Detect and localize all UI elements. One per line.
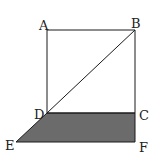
label-a: A bbox=[38, 18, 49, 33]
label-f: F bbox=[139, 140, 148, 155]
geometry-diagram: A B D C E F bbox=[0, 0, 159, 163]
segment-db bbox=[47, 30, 135, 113]
label-b: B bbox=[131, 16, 141, 31]
label-d: D bbox=[34, 107, 44, 122]
label-e: E bbox=[5, 138, 15, 153]
label-c: C bbox=[139, 108, 149, 123]
